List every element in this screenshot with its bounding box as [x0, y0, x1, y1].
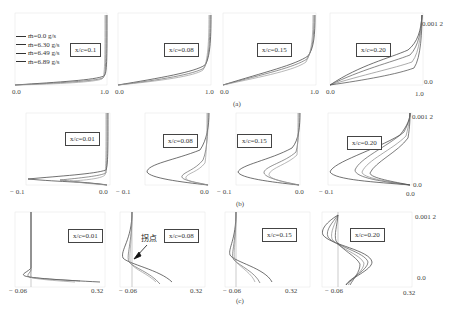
y-tick: 0.001 2	[422, 20, 443, 28]
subfigure-caption: (b)	[236, 200, 244, 208]
x-tick: 0.32	[190, 287, 202, 295]
y-tick: 0.001 2	[415, 213, 436, 221]
panel-label: x/c=0.01	[68, 229, 103, 243]
x-tick: 1.0	[205, 88, 214, 96]
x-tick: − 0.06	[223, 287, 241, 295]
legend-entry: ṁ=0.0 g/s	[16, 32, 60, 41]
x-tick: 0.32	[403, 289, 415, 297]
x-tick: 0.0	[406, 190, 415, 198]
y-tick: 0.0	[413, 181, 422, 189]
legend-line-icon	[16, 61, 26, 62]
legend-line-icon	[16, 53, 26, 54]
x-tick: 1.0	[100, 88, 109, 96]
legend-line-icon	[16, 44, 26, 45]
x-tick: − 0.06	[325, 287, 343, 295]
x-tick: 0.0	[99, 188, 108, 196]
x-tick: − 0.06	[9, 287, 27, 295]
panel-label: x/c=0.1	[70, 43, 101, 57]
y-tick: 0.001 2	[412, 113, 433, 121]
x-tick: − 0.06	[119, 287, 137, 295]
x-tick: 0.32	[91, 287, 103, 295]
panel-label: x/c=0.15	[262, 228, 297, 242]
panel-label: x/c=0.01	[65, 132, 100, 146]
panel-label: x/c=0.08	[164, 43, 199, 57]
x-tick: 0.0	[326, 88, 335, 96]
panel-label: x/c=0.20	[356, 43, 391, 57]
x-tick: − 0.1	[217, 188, 231, 196]
inflection-point-annotation: 拐点	[141, 232, 157, 243]
x-tick: 1.0	[310, 88, 319, 96]
x-tick: − 0.1	[10, 188, 24, 196]
panel-label: x/c=0.15	[257, 43, 292, 57]
panel-label: x/c=0.15	[237, 134, 272, 148]
panel-label: x/c=0.20	[350, 228, 385, 242]
subfigure-caption: (c)	[236, 297, 244, 305]
x-tick: − 0.1	[116, 188, 130, 196]
x-tick: 1.0	[415, 90, 424, 98]
x-tick: 0.0	[200, 188, 209, 196]
y-tick: 0.0	[424, 78, 433, 86]
panel-label: x/c=0.20	[347, 136, 382, 150]
x-tick: 0.32	[285, 287, 297, 295]
y-tick: 0.0	[417, 274, 426, 282]
x-tick: 0.0	[295, 188, 304, 196]
panel-label: x/c=0.08	[164, 229, 199, 243]
x-tick: 0.0	[115, 88, 124, 96]
legend-entry: ṁ=6.49 g/s	[16, 49, 60, 58]
x-tick: 0.0	[220, 88, 229, 96]
legend-entry: ṁ=6.30 g/s	[16, 41, 60, 50]
legend-entry: ṁ=6.89 g/s	[16, 58, 60, 67]
subfigure-caption: (a)	[233, 100, 241, 108]
legend-line-icon	[16, 36, 26, 37]
panel-label: x/c=0.08	[163, 134, 198, 148]
x-tick: 0.0	[12, 88, 21, 96]
legend: ṁ=0.0 g/s ṁ=6.30 g/s ṁ=6.49 g/s ṁ=6.89 g…	[16, 32, 60, 66]
x-tick: − 0.1	[319, 188, 333, 196]
